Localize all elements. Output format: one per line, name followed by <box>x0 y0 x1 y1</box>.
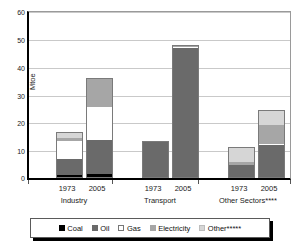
segment-oil <box>56 159 83 174</box>
y-tick-label-60: 60 <box>5 9 25 16</box>
segment-gas <box>56 141 83 159</box>
gridline-40 <box>29 68 290 69</box>
oil-swatch-icon <box>92 225 98 231</box>
segment-other <box>228 147 255 162</box>
x-tick-label-transport-2005: 2005 <box>163 184 203 193</box>
segment-other <box>258 110 285 126</box>
segment-electricity <box>258 125 285 143</box>
x-group-label-industry: Industry <box>44 196 104 205</box>
chart-legend: Coal Oil Gas Electricity Other***** <box>30 218 270 238</box>
legend-item-gas[interactable]: Gas <box>118 224 140 233</box>
bar-industry-2005[interactable] <box>86 78 113 178</box>
gridline-20 <box>29 123 290 124</box>
segment-oil <box>86 140 113 174</box>
segment-oil <box>142 141 169 178</box>
legend-label-gas: Gas <box>127 224 141 233</box>
gridline-30 <box>29 96 290 97</box>
segment-coal <box>56 175 83 178</box>
segment-oil <box>228 165 255 178</box>
segment-coal <box>86 174 113 178</box>
y-tick-label-30: 30 <box>5 93 25 100</box>
legend-label-coal: Coal <box>67 224 82 233</box>
x-tick-label-other-sectors-2005: 2005 <box>249 184 289 193</box>
x-tickmark-3 <box>290 180 291 184</box>
segment-oil <box>258 145 285 178</box>
x-tick-label-industry-2005: 2005 <box>77 184 117 193</box>
x-tickmark-0 <box>28 180 29 184</box>
gridline-60 <box>29 12 290 13</box>
bar-other-sectors-1973[interactable] <box>228 147 255 178</box>
legend-item-oil[interactable]: Oil <box>92 224 110 233</box>
chart-container: 60 50 40 30 20 10 0 Mtoe <box>0 0 298 248</box>
legend-item-electricity[interactable]: Electricity <box>150 224 191 233</box>
bar-other-sectors-2005[interactable] <box>258 110 285 178</box>
y-tick-label-50: 50 <box>5 37 25 44</box>
bar-transport-1973[interactable] <box>142 141 169 178</box>
y-tick-label-20: 20 <box>5 120 25 127</box>
y-tick-label-0: 0 <box>5 175 25 182</box>
legend-label-other: Other***** <box>208 224 241 233</box>
y-axis-title: Mtoe <box>28 73 37 90</box>
x-group-label-transport: Transport <box>130 196 190 205</box>
electricity-swatch-icon <box>150 225 156 231</box>
bar-transport-2005[interactable] <box>172 45 199 178</box>
y-tick-label-40: 40 <box>5 65 25 72</box>
legend-label-electricity: Electricity <box>158 224 190 233</box>
x-group-label-other-sectors: Other Sectors**** <box>203 196 293 205</box>
y-tick-label-10: 10 <box>5 148 25 155</box>
gridline-50 <box>29 40 290 41</box>
legend-label-oil: Oil <box>100 224 109 233</box>
segment-oil <box>172 48 199 179</box>
segment-gas <box>86 107 113 140</box>
segment-electricity <box>86 79 113 107</box>
other-swatch-icon <box>199 225 205 231</box>
plot-area: 60 50 40 30 20 10 0 Mtoe <box>27 11 291 180</box>
gas-swatch-icon <box>118 225 124 231</box>
bar-industry-1973[interactable] <box>56 132 83 178</box>
legend-item-other[interactable]: Other***** <box>199 224 241 233</box>
coal-swatch-icon <box>59 225 65 231</box>
legend-item-coal[interactable]: Coal <box>59 224 83 233</box>
